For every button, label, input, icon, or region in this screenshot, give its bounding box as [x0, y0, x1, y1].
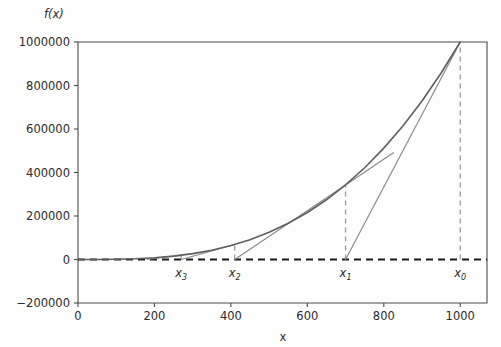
y-tick-label: 800000 [26, 79, 70, 93]
x-tick-label: 200 [143, 309, 165, 323]
x-tick-label: 1000 [446, 309, 475, 323]
x-tick-label: 400 [220, 309, 242, 323]
chart-background [0, 0, 501, 347]
newton-method-chart: 10000008000006000004000002000000−200000 … [0, 0, 501, 347]
y-tick-label: 1000000 [19, 35, 70, 49]
y-axis-title: f(x) [44, 7, 64, 21]
y-tick-label: 200000 [26, 209, 70, 223]
y-tick-label: 400000 [26, 166, 70, 180]
y-tick-label: 600000 [26, 122, 70, 136]
x-axis-title: x [280, 330, 287, 344]
plot-area: 10000008000006000004000002000000−200000 … [0, 0, 501, 347]
y-tick-label: −200000 [16, 296, 70, 310]
y-tick-label: 0 [63, 253, 70, 267]
x-tick-label: 600 [296, 309, 318, 323]
x-tick-label: 0 [74, 309, 81, 323]
x-tick-label: 800 [373, 309, 395, 323]
